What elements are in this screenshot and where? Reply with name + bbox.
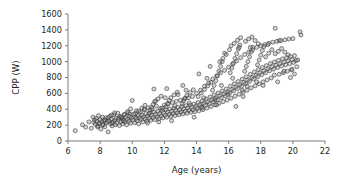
- data-point: [276, 80, 280, 84]
- data-point: [146, 121, 150, 125]
- data-point: [235, 52, 239, 56]
- data-point: [288, 62, 292, 66]
- data-point: [290, 67, 294, 71]
- data-point: [265, 78, 269, 82]
- data-point: [106, 130, 110, 134]
- data-point: [234, 104, 238, 108]
- data-point: [253, 39, 257, 43]
- data-point: [264, 55, 268, 59]
- data-point: [209, 80, 213, 84]
- data-point: [284, 63, 288, 67]
- y-tick-label-1200: 1200: [41, 41, 62, 51]
- data-point: [280, 64, 284, 68]
- x-tick-label-8: 8: [98, 146, 103, 156]
- data-point: [291, 37, 295, 41]
- data-point: [200, 106, 204, 110]
- data-point: [239, 36, 243, 40]
- data-point: [134, 116, 138, 120]
- data-point: [117, 116, 121, 120]
- data-point: [229, 96, 233, 100]
- data-point: [261, 83, 265, 87]
- data-point: [219, 96, 223, 100]
- data-point: [190, 95, 194, 99]
- data-point: [202, 96, 206, 100]
- data-point: [248, 55, 252, 59]
- data-point: [97, 122, 101, 126]
- x-tick-label-14: 14: [191, 146, 201, 156]
- data-point: [110, 121, 114, 125]
- data-point: [286, 53, 290, 57]
- data-point: [225, 98, 229, 102]
- data-point: [228, 71, 232, 75]
- data-point: [121, 119, 125, 123]
- data-point: [241, 95, 245, 99]
- x-axis-title: Age (years): [172, 165, 222, 175]
- data-point: [203, 87, 207, 91]
- data-point: [239, 84, 243, 88]
- scatter-plot-figure: 02004006008001000120014001600 6810121416…: [0, 0, 341, 183]
- data-point: [125, 123, 129, 127]
- data-point: [187, 101, 191, 105]
- data-point: [157, 120, 161, 124]
- data-point: [253, 84, 257, 88]
- y-tick-label-600: 600: [46, 88, 62, 98]
- data-point: [142, 107, 146, 111]
- data-point: [196, 95, 200, 99]
- data-point: [280, 47, 284, 51]
- x-tick-label-10: 10: [127, 146, 137, 156]
- data-point: [212, 83, 216, 87]
- data-point: [255, 80, 259, 84]
- data-point: [154, 99, 158, 103]
- data-point: [256, 42, 260, 46]
- data-point: [163, 96, 167, 100]
- data-point: [295, 65, 299, 69]
- data-point: [260, 73, 264, 77]
- data-point: [283, 38, 287, 42]
- data-point: [272, 67, 276, 71]
- data-point: [143, 103, 147, 107]
- x-tick-label-16: 16: [223, 146, 233, 156]
- data-point: [249, 50, 253, 54]
- data-point: [288, 76, 292, 80]
- data-point: [282, 69, 286, 73]
- data-point: [129, 107, 133, 111]
- data-point: [137, 122, 141, 126]
- data-point: [233, 94, 237, 98]
- data-point: [211, 88, 215, 92]
- y-axis-title: CPP (W): [11, 60, 21, 94]
- y-tick-label-800: 800: [46, 72, 62, 82]
- data-point: [237, 92, 241, 96]
- data-point: [260, 49, 264, 53]
- data-point: [219, 83, 223, 87]
- data-point: [130, 99, 134, 103]
- data-point: [223, 51, 227, 55]
- data-point: [113, 111, 117, 115]
- data-point: [199, 91, 203, 95]
- data-point: [259, 53, 263, 57]
- y-tick-label-1600: 1600: [41, 9, 62, 19]
- x-tick-label-12: 12: [159, 146, 169, 156]
- y-tick-label-1400: 1400: [41, 25, 62, 35]
- data-point: [197, 72, 201, 76]
- x-tick-label-6: 6: [65, 146, 70, 156]
- data-point: [256, 75, 260, 79]
- data-point: [105, 120, 109, 124]
- data-point: [217, 69, 221, 73]
- data-point: [257, 58, 261, 62]
- data-point: [245, 88, 249, 92]
- data-point: [239, 56, 243, 60]
- data-point: [181, 83, 185, 87]
- data-point: [226, 93, 230, 97]
- data-point: [208, 64, 212, 68]
- data-point: [276, 66, 280, 70]
- data-point: [173, 104, 177, 108]
- chart-canvas: 02004006008001000120014001600 6810121416…: [0, 0, 341, 183]
- data-point: [218, 60, 222, 64]
- data-point: [244, 64, 248, 68]
- data-point: [223, 68, 227, 72]
- data-point: [240, 88, 244, 92]
- data-point: [191, 88, 195, 92]
- data-point: [231, 61, 235, 65]
- y-tick-label-1000: 1000: [41, 57, 62, 67]
- data-point: [206, 84, 210, 88]
